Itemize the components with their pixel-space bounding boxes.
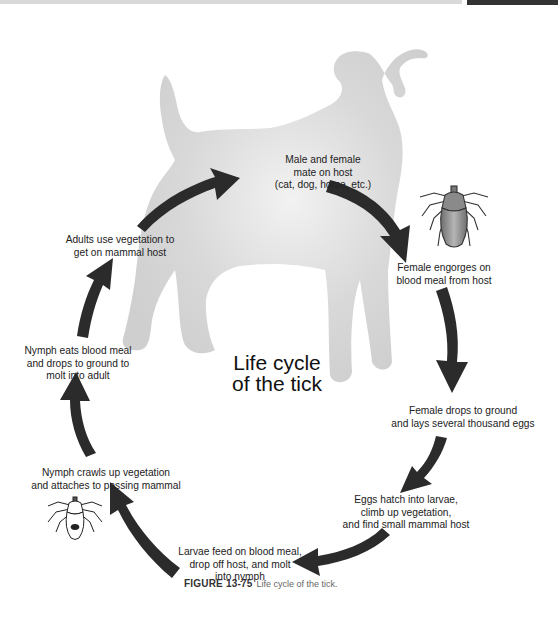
- text-line: and drops to ground to: [18, 358, 138, 371]
- step-nymph-crawl-label: Nymph crawls up vegetation and attaches …: [26, 467, 186, 492]
- text-line: climb up vegetation,: [341, 507, 471, 520]
- text-line: and find small mammal host: [341, 519, 471, 532]
- title-line: Life cycle: [212, 352, 342, 373]
- arrow-nymph-eat-to-adult: [77, 258, 113, 338]
- arrow-larvae-to-nymph: [110, 482, 180, 578]
- text-line: blood meal from host: [384, 275, 504, 288]
- step-engorge-label: Female engorges on blood meal from host: [384, 262, 504, 287]
- diagram-title: Life cycle of the tick: [212, 352, 342, 394]
- text-line: Adults use vegetation to: [60, 234, 180, 247]
- text-line: get on mammal host: [60, 247, 180, 260]
- text-line: and lays several thousand eggs: [383, 418, 543, 431]
- caption-text: Life cycle of the tick.: [257, 579, 338, 589]
- figure-caption: FIGURE 13-75Life cycle of the tick.: [184, 578, 434, 589]
- nymph-tick: [48, 497, 102, 540]
- text-line: Male and female: [258, 154, 388, 167]
- text-line: drop off host, and molt: [175, 559, 305, 572]
- text-line: Nymph eats blood meal: [18, 345, 138, 358]
- arrow-lay-to-hatch: [400, 436, 447, 493]
- title-line: of the tick: [212, 373, 342, 394]
- figure-label: FIGURE 13-75: [184, 578, 253, 589]
- step-hatch-label: Eggs hatch into larvae, climb up vegetat…: [341, 494, 471, 532]
- text-line: Eggs hatch into larvae,: [341, 494, 471, 507]
- text-line: and attaches to passing mammal: [26, 480, 186, 493]
- text-line: mate on host: [258, 167, 388, 180]
- arrow-nymph-crawl-to-eat: [60, 372, 96, 457]
- step-nymph-eat-label: Nymph eats blood meal and drops to groun…: [18, 345, 138, 383]
- text-line: Female drops to ground: [383, 405, 543, 418]
- text-line: Nymph crawls up vegetation: [26, 467, 186, 480]
- arrow-hatch-to-larvae: [292, 528, 390, 576]
- text-line: Female engorges on: [384, 262, 504, 275]
- arrow-engorge-to-lay: [436, 287, 468, 393]
- text-line: molt into adult: [18, 370, 138, 383]
- step-lay-eggs-label: Female drops to ground and lays several …: [383, 405, 543, 430]
- text-line: Larvae feed on blood meal,: [175, 546, 305, 559]
- engorged-female-tick: [420, 186, 488, 247]
- diagram-artwork: [0, 0, 558, 624]
- text-line: (cat, dog, horse, etc.): [258, 179, 388, 192]
- step-adult-climb-label: Adults use vegetation to get on mammal h…: [60, 234, 180, 259]
- step-mate-label: Male and female mate on host (cat, dog, …: [258, 154, 388, 192]
